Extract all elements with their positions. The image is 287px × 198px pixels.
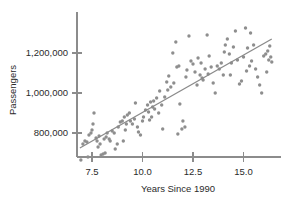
- scatter-point: [228, 52, 231, 55]
- scatter-point: [141, 119, 144, 122]
- scatter-point: [254, 67, 257, 70]
- scatter-point: [96, 145, 99, 148]
- x-axis: 7.510.012.515.0 Years Since 1990: [77, 152, 281, 194]
- scatter-point: [266, 49, 269, 52]
- scatter-point: [178, 102, 181, 105]
- scatter-point: [122, 139, 125, 142]
- scatter-point: [232, 45, 235, 48]
- scatter-point: [250, 59, 253, 62]
- scatter-point: [214, 91, 217, 94]
- scatter-point: [98, 142, 101, 145]
- scatter-point: [124, 128, 127, 131]
- scatter-point: [240, 79, 243, 82]
- scatter-point: [198, 73, 201, 76]
- scatter-point: [260, 91, 263, 94]
- scatter-point: [152, 99, 155, 102]
- scatter-point: [108, 139, 111, 142]
- scatter-point: [244, 26, 247, 29]
- scatter-point: [153, 107, 156, 110]
- scatter-point: [161, 127, 164, 130]
- scatter-point: [229, 73, 232, 76]
- scatter-point: [137, 130, 140, 133]
- scatter-point: [160, 103, 163, 106]
- scatter-point: [147, 110, 150, 113]
- scatter-point: [216, 64, 219, 67]
- y-axis-tick-labels: 800,0001,000,0001,200,000: [26, 47, 68, 138]
- scatter-point: [142, 115, 145, 118]
- y-axis: 800,0001,000,0001,200,000 Passengers: [7, 12, 82, 157]
- scatter-point: [209, 65, 212, 68]
- scatter-point: [113, 131, 116, 134]
- scatter-plot-figure: 800,0001,000,0001,200,000 Passengers 7.5…: [0, 0, 287, 198]
- scatter-point: [245, 69, 248, 72]
- scatter-point: [196, 56, 199, 59]
- scatter-point: [139, 133, 142, 136]
- scatter-point: [222, 73, 225, 76]
- scatter-point: [121, 119, 124, 122]
- scatter-point: [174, 40, 177, 43]
- x-tick-label: 15.0: [234, 166, 253, 177]
- scatter-point: [223, 50, 226, 53]
- scatter-point: [90, 128, 93, 131]
- scatter-point: [134, 101, 137, 104]
- x-axis-tick-labels: 7.510.012.515.0: [85, 166, 252, 177]
- x-tick-label: 10.0: [133, 166, 152, 177]
- scatter-point: [268, 44, 271, 47]
- scatter-point: [149, 100, 152, 103]
- scatter-point: [189, 59, 192, 62]
- x-axis-title: Years Since 1990: [141, 183, 215, 194]
- scatter-point: [86, 155, 89, 158]
- scatter-point: [176, 132, 179, 135]
- scatter-point: [165, 80, 168, 83]
- scatter-point: [95, 139, 98, 142]
- scatter-point: [249, 31, 252, 34]
- scatter-point: [166, 88, 169, 91]
- scatter-point: [207, 54, 210, 57]
- scatter-point: [169, 85, 172, 88]
- scatter-point: [226, 37, 229, 40]
- scatter-point: [150, 115, 153, 118]
- scatter-point: [267, 58, 270, 61]
- scatter-point: [163, 95, 166, 98]
- scatter-point: [167, 74, 170, 77]
- scatter-point: [180, 127, 183, 130]
- scatter-point: [184, 75, 187, 78]
- scatter-point: [220, 61, 223, 64]
- scatter-point: [172, 81, 175, 84]
- scatter-point: [195, 83, 198, 86]
- chart-canvas: 800,0001,000,0001,200,000 Passengers 7.5…: [0, 0, 287, 198]
- scatter-point: [185, 68, 188, 71]
- scatter-point: [234, 29, 237, 32]
- scatter-point: [155, 96, 158, 99]
- scatter-point: [91, 122, 94, 125]
- scatter-point: [136, 125, 139, 128]
- y-tick-label: 1,200,000: [26, 47, 68, 58]
- scatter-point: [269, 55, 272, 58]
- scatter-point: [265, 70, 268, 73]
- scatter-point: [181, 119, 184, 122]
- scatter-point: [148, 118, 151, 121]
- y-tick-label: 1,000,000: [26, 87, 68, 98]
- scatter-point: [92, 111, 95, 114]
- scatter-point: [224, 43, 227, 46]
- scatter-point: [264, 52, 267, 55]
- scatter-point: [177, 64, 180, 67]
- scatter-point: [103, 151, 106, 154]
- x-tick-label: 7.5: [85, 166, 98, 177]
- regression-trendline: [80, 39, 272, 148]
- scatter-point: [199, 61, 202, 64]
- scatter-point: [114, 147, 117, 150]
- scatter-point: [128, 111, 131, 114]
- y-tick-label: 800,000: [34, 127, 68, 138]
- scatter-point: [171, 51, 174, 54]
- scatter-point: [157, 111, 160, 114]
- scatter-point: [205, 33, 208, 36]
- scatter-point: [131, 122, 134, 125]
- x-tick-label: 12.5: [184, 166, 203, 177]
- scatter-point: [246, 46, 249, 49]
- scatter-point: [270, 60, 273, 63]
- scatter-point: [203, 67, 206, 70]
- scatter-point: [256, 75, 259, 78]
- scatter-point: [104, 135, 107, 138]
- scatter-points: [79, 26, 273, 161]
